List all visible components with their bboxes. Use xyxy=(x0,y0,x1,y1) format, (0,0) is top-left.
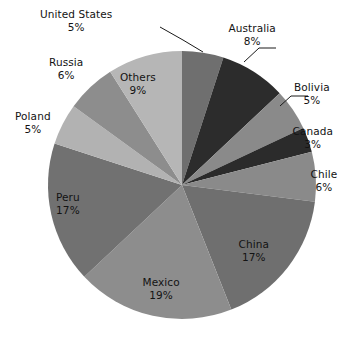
pie-label-value: 17% xyxy=(56,204,80,217)
pie-label-chile: Chile6% xyxy=(311,168,338,194)
pie-label-value: 3% xyxy=(293,138,334,151)
pie-label-china: China17% xyxy=(239,238,270,264)
pie-label-others: Others9% xyxy=(120,71,156,97)
pie-label-value: 5% xyxy=(15,123,51,136)
pie-label-value: 5% xyxy=(294,94,330,107)
pie-label-name: Poland xyxy=(15,110,51,123)
pie-label-value: 9% xyxy=(120,84,156,97)
pie-label-name: Peru xyxy=(56,191,80,204)
pie-label-value: 5% xyxy=(40,21,112,34)
pie-label-name: Australia xyxy=(229,22,276,35)
pie-label-value: 8% xyxy=(229,35,276,48)
pie-label-mexico: Mexico19% xyxy=(143,276,180,302)
pie-label-australia: Australia8% xyxy=(229,22,276,48)
pie-label-name: Russia xyxy=(49,56,83,69)
pie-label-name: Bolivia xyxy=(294,81,330,94)
leader-line-united-states xyxy=(160,27,203,52)
pie-label-poland: Poland5% xyxy=(15,110,51,136)
pie-label-name: United States xyxy=(40,8,112,21)
pie-label-name: Chile xyxy=(311,168,338,181)
pie-label-bolivia: Bolivia5% xyxy=(294,81,330,107)
pie-label-united-states: United States5% xyxy=(40,8,112,34)
pie-chart-canvas xyxy=(0,0,363,338)
pie-label-value: 6% xyxy=(49,69,83,82)
pie-label-peru: Peru17% xyxy=(56,191,80,217)
pie-label-value: 6% xyxy=(311,181,338,194)
pie-label-name: Others xyxy=(120,71,156,84)
leader-line-australia xyxy=(244,48,276,62)
pie-label-canada: Canada3% xyxy=(293,125,334,151)
pie-label-name: China xyxy=(239,238,270,251)
pie-label-value: 19% xyxy=(143,289,180,302)
pie-slices-group xyxy=(48,51,316,319)
pie-label-name: Mexico xyxy=(143,276,180,289)
pie-label-russia: Russia6% xyxy=(49,56,83,82)
pie-label-value: 17% xyxy=(239,251,270,264)
pie-label-name: Canada xyxy=(293,125,334,138)
pie-chart: United States5%Australia8%Bolivia5%Canad… xyxy=(0,0,363,338)
